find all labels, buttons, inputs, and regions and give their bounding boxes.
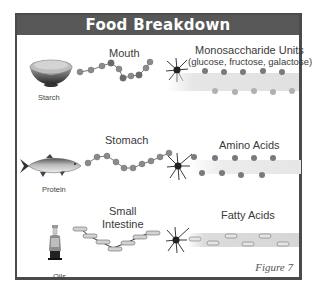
figure-caption: Figure 7 xyxy=(255,261,293,273)
organ-label-stomach: Stomach xyxy=(105,134,148,146)
diagram-title: Food Breakdown xyxy=(17,15,299,35)
food-label-starch: Starch xyxy=(38,93,60,102)
organ-label-small-intestine-line1: Small xyxy=(109,205,137,217)
product-label-fatty-acids: Fatty Acids xyxy=(221,209,275,221)
oil-bottle-icon xyxy=(47,225,63,261)
product-label-monosaccharide: Monosaccharide Units xyxy=(195,44,304,56)
fatty-acid-units xyxy=(187,229,302,253)
rice-bowl-icon xyxy=(28,57,74,89)
product-label-amino-acids: Amino Acids xyxy=(219,139,280,151)
product-sublabel-monosaccharide: (glucose, fructose, galactose) xyxy=(188,56,312,67)
food-label-protein: Protein xyxy=(42,185,66,194)
diagram-frame: Food Breakdown Starch Mouth Monosacchari… xyxy=(15,13,302,280)
fat-chain-molecule xyxy=(69,227,169,257)
monosaccharide-units xyxy=(167,67,302,99)
organ-label-mouth: Mouth xyxy=(109,47,140,59)
amino-acid-units xyxy=(189,153,304,183)
starch-chain-molecule xyxy=(77,59,167,99)
food-label-oils: Oils xyxy=(53,272,66,281)
fish-icon xyxy=(20,153,82,179)
